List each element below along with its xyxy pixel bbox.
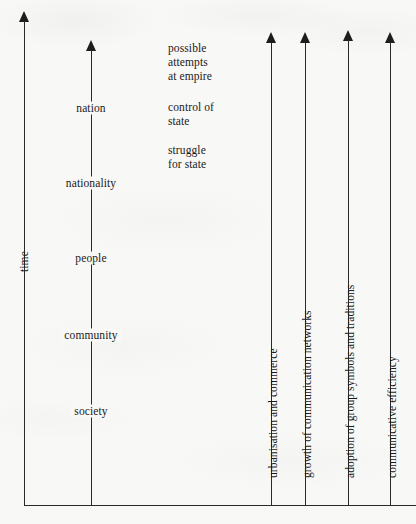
driver-label-adoption-of-group-symbols-and-traditions: adoption of group symbols and traditions xyxy=(344,285,357,478)
driver-label-urbanisation-and-commerce: urbanisation and commerce xyxy=(267,348,280,478)
annotation-control-of-state: control of state xyxy=(168,100,214,128)
stage-label-nationality: nationality xyxy=(62,177,120,190)
diagram-canvas: time nation nationality people community… xyxy=(0,0,416,524)
annotation-struggle-for-state: struggle for state xyxy=(168,143,206,171)
stage-label-community: community xyxy=(60,329,121,342)
figure-baseline xyxy=(24,505,416,506)
driver-label-communicative-efficiency: communicative efficiency xyxy=(386,356,399,478)
time-axis-label: time xyxy=(18,251,30,272)
annotation-possible-attempts-at-empire: possible attempts at empire xyxy=(168,41,212,84)
driver-label-growth-of-communication-networks: growth of communication networks xyxy=(301,310,314,478)
stage-label-society: society xyxy=(70,405,111,418)
stage-axis-line xyxy=(91,50,92,505)
stage-label-people: people xyxy=(71,252,110,265)
stage-label-nation: nation xyxy=(72,102,109,115)
